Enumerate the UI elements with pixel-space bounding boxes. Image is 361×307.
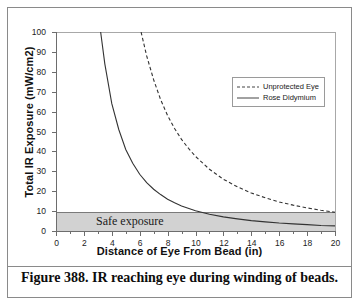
x-tick-label: 6 [138,238,143,248]
x-tick-label: 4 [110,238,115,248]
curve-rose-didymium [101,32,335,226]
x-tick-minor [265,232,266,234]
x-tick-minor [293,232,294,234]
x-tick-minor [209,232,210,234]
legend[interactable]: Unprotected Eye Rose Didymium [232,77,325,107]
x-tick-label: 0 [54,238,59,248]
legend-label-unprotected-eye: Unprotected Eye [263,82,319,91]
y-tick-label: 90 [37,47,46,57]
x-tick-minor [126,232,127,234]
legend-item-unprotected-eye[interactable]: Unprotected Eye [237,81,319,92]
y-tick-label: 80 [37,67,46,77]
x-tick: 16 [279,232,280,236]
x-tick-minor [321,232,322,234]
x-tick: 0 [56,232,57,236]
legend-swatch-dashed-icon [237,83,259,91]
x-tick: 4 [112,232,113,236]
y-tick-label: 0 [41,226,46,236]
caption-divider [8,266,351,267]
y-tick-label: 40 [37,146,46,156]
x-tick-label: 8 [166,238,171,248]
plot-area: Safe exposure 0102030405060708090100 024… [56,32,335,232]
x-tick-label: 10 [191,238,200,248]
x-tick-label: 16 [275,238,284,248]
x-tick: 20 [335,232,336,236]
x-axis-title: Distance of Eye From Bead (in) [8,245,351,257]
x-tick-minor [70,232,71,234]
x-tick-minor [237,232,238,234]
x-tick-label: 20 [331,238,340,248]
x-tick-minor [154,232,155,234]
x-tick: 12 [223,232,224,236]
x-tick-label: 2 [82,238,87,248]
x-tick: 2 [84,232,85,236]
legend-item-rose-didymium[interactable]: Rose Didymium [237,92,319,103]
y-tick-label: 50 [37,127,46,137]
x-tick: 8 [168,232,169,236]
figure-frame: Total IR Exposure (mW/cm2) Distance of E… [7,7,352,298]
x-tick-minor [182,232,183,234]
x-tick-label: 14 [247,238,256,248]
curve-unprotected-eye [141,32,335,212]
legend-label-rose-didymium: Rose Didymium [263,93,316,102]
y-tick-label: 30 [37,166,46,176]
x-tick-label: 18 [303,238,312,248]
y-axis-title: Total IR Exposure (mW/cm2) [23,27,35,217]
x-tick: 18 [307,232,308,236]
y-tick-label: 100 [32,27,46,37]
x-tick-label: 12 [219,238,228,248]
data-curves [56,32,336,232]
x-tick: 14 [251,232,252,236]
chart-region: Total IR Exposure (mW/cm2) Distance of E… [8,8,351,266]
x-tick: 10 [196,232,197,236]
x-tick-minor [98,232,99,234]
y-tick-label: 20 [37,186,46,196]
figure-caption: Figure 388. IR reaching eye during windi… [8,270,351,286]
y-tick-label: 60 [37,107,46,117]
x-tick: 6 [140,232,141,236]
legend-swatch-solid-icon [237,94,259,102]
y-tick-label: 10 [37,206,46,216]
y-tick-label: 70 [37,87,46,97]
